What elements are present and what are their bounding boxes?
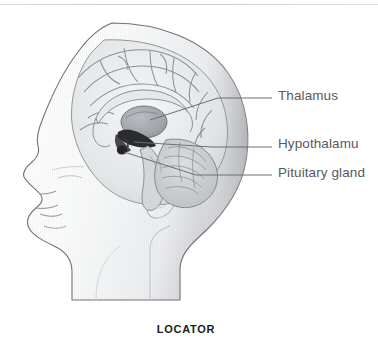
locator-figure: Thalamus Hypothalamu Pituitary gland LOC…	[0, 0, 378, 347]
label-pituitary-gland: Pituitary gland	[278, 166, 365, 180]
figure-caption: LOCATOR	[0, 323, 372, 335]
label-thalamus: Thalamus	[278, 89, 338, 103]
label-hypothalamus: Hypothalamu	[278, 137, 359, 151]
